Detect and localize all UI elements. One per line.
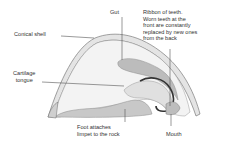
label-ribbon-of-teeth: Ribbon of teeth. Worn teeth at the front… xyxy=(143,9,197,42)
label-mouth: Mouth xyxy=(166,131,182,138)
label-foot: Foot attaches limpet to the rock xyxy=(77,124,120,137)
label-conical-shell: Conical shell xyxy=(14,31,46,38)
label-cartilage-tongue: Cartilage tongue xyxy=(13,70,35,83)
label-gut: Gut xyxy=(110,9,119,16)
